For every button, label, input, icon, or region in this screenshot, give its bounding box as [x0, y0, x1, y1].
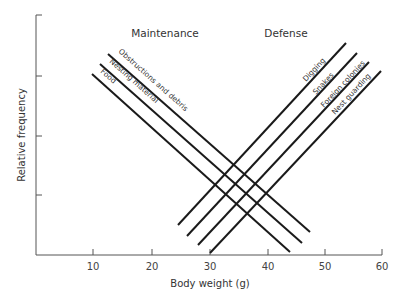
x-axis — [36, 249, 382, 255]
x-tick-40: 40 — [262, 261, 275, 272]
line-food — [92, 74, 290, 252]
y-axis — [36, 15, 42, 255]
maintenance-label: Maintenance — [131, 27, 199, 39]
x-tick-10: 10 — [87, 261, 100, 272]
x-tick-50: 50 — [319, 261, 332, 272]
y-axis-label: Relative frequency — [16, 88, 27, 182]
chart: 10 20 30 40 50 60 Body weight (g) Relati… — [0, 0, 403, 302]
x-tick-20: 20 — [146, 261, 159, 272]
line-nesting-material — [100, 64, 302, 243]
x-axis-label: Body weight (g) — [170, 278, 250, 289]
x-tick-60: 60 — [376, 261, 389, 272]
defense-label: Defense — [264, 27, 307, 39]
x-tick-30: 30 — [204, 261, 217, 272]
